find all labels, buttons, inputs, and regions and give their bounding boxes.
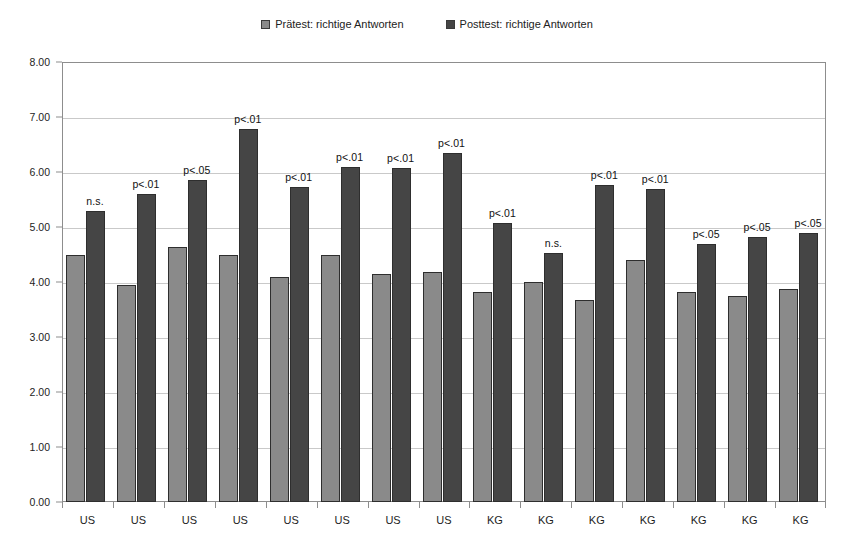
bar-group: p<.01 bbox=[571, 62, 622, 502]
bar-group: p<.01 bbox=[419, 62, 470, 502]
x-tick-mark bbox=[62, 502, 63, 508]
y-tick-label: 4.00 bbox=[30, 276, 50, 288]
bar-group: p<.01 bbox=[368, 62, 419, 502]
y-tick-label: 8.00 bbox=[30, 56, 50, 68]
bar-group: p<.01 bbox=[469, 62, 520, 502]
x-tick-mark bbox=[317, 502, 318, 508]
bars-layer: n.s.p<.01p<.05p<.01p<.01p<.01p<.01p<.01p… bbox=[62, 62, 826, 502]
x-tick-label: KG bbox=[487, 514, 503, 526]
x-tick-mark bbox=[215, 502, 216, 508]
bar-group: p<.01 bbox=[317, 62, 368, 502]
bar-pretest bbox=[728, 296, 747, 502]
bar-posttest bbox=[443, 153, 462, 502]
bar-posttest bbox=[799, 233, 818, 503]
bar-group: p<.05 bbox=[724, 62, 775, 502]
significance-annotation: p<.05 bbox=[693, 228, 720, 240]
bar-posttest bbox=[493, 223, 512, 502]
x-tick-mark bbox=[469, 502, 470, 508]
y-tick-label: 6.00 bbox=[30, 166, 50, 178]
x-tick-label: US bbox=[334, 514, 349, 526]
significance-annotation: n.s. bbox=[545, 237, 562, 249]
bar-posttest bbox=[544, 253, 563, 502]
bar-pretest bbox=[219, 255, 238, 503]
bar-group: p<.01 bbox=[266, 62, 317, 502]
x-tick-mark bbox=[113, 502, 114, 508]
y-tick-label: 7.00 bbox=[30, 111, 50, 123]
bar-posttest bbox=[239, 129, 258, 502]
bar-chart: Prätest: richtige AntwortenPosttest: ric… bbox=[0, 0, 854, 549]
bar-pretest bbox=[270, 277, 289, 503]
x-tick-mark bbox=[368, 502, 369, 508]
bar-group: p<.01 bbox=[113, 62, 164, 502]
bar-group: p<.05 bbox=[775, 62, 826, 502]
significance-annotation: p<.01 bbox=[132, 178, 159, 190]
bar-group: p<.05 bbox=[673, 62, 724, 502]
significance-annotation: p<.05 bbox=[744, 221, 771, 233]
y-tick-label: 1.00 bbox=[30, 441, 50, 453]
bar-posttest bbox=[392, 168, 411, 502]
bar-pretest bbox=[626, 260, 645, 502]
significance-annotation: p<.01 bbox=[336, 151, 363, 163]
significance-annotation: p<.01 bbox=[591, 169, 618, 181]
bar-posttest bbox=[646, 189, 665, 503]
bar-posttest bbox=[188, 180, 207, 502]
x-tick-mark bbox=[825, 502, 826, 508]
x-tick-label: KG bbox=[793, 514, 809, 526]
x-tick-mark bbox=[164, 502, 165, 508]
significance-annotation: p<.05 bbox=[795, 217, 822, 229]
legend-swatch-icon bbox=[261, 20, 270, 29]
significance-annotation: p<.01 bbox=[387, 152, 414, 164]
x-tick-mark bbox=[571, 502, 572, 508]
x-tick-label: US bbox=[436, 514, 451, 526]
x-tick-label: US bbox=[233, 514, 248, 526]
y-tick-label: 0.00 bbox=[30, 496, 50, 508]
legend-label: Posttest: richtige Antworten bbox=[460, 18, 593, 30]
legend-swatch-icon bbox=[446, 20, 455, 29]
bar-pretest bbox=[372, 274, 391, 502]
bar-posttest bbox=[748, 237, 767, 502]
bar-posttest bbox=[341, 167, 360, 503]
legend-entry: Posttest: richtige Antworten bbox=[446, 18, 593, 30]
x-tick-label: US bbox=[284, 514, 299, 526]
bar-group: n.s. bbox=[520, 62, 571, 502]
x-tick-label: KG bbox=[538, 514, 554, 526]
legend-label: Prätest: richtige Antworten bbox=[275, 18, 403, 30]
bar-pretest bbox=[168, 247, 187, 502]
chart-legend: Prätest: richtige AntwortenPosttest: ric… bbox=[0, 18, 854, 30]
x-tick-mark bbox=[673, 502, 674, 508]
bar-pretest bbox=[117, 285, 136, 502]
bar-pretest bbox=[779, 289, 798, 502]
y-axis: 0.001.002.003.004.005.006.007.008.00 bbox=[0, 0, 62, 549]
x-tick-label: US bbox=[131, 514, 146, 526]
bar-posttest bbox=[595, 185, 614, 502]
x-tick-label: KG bbox=[589, 514, 605, 526]
bar-posttest bbox=[137, 194, 156, 502]
bar-pretest bbox=[423, 272, 442, 502]
significance-annotation: p<.01 bbox=[489, 207, 516, 219]
y-tick-label: 3.00 bbox=[30, 331, 50, 343]
x-tick-mark bbox=[622, 502, 623, 508]
bar-pretest bbox=[66, 255, 85, 503]
significance-annotation: p<.01 bbox=[438, 137, 465, 149]
significance-annotation: p<.01 bbox=[285, 171, 312, 183]
x-tick-label: US bbox=[385, 514, 400, 526]
legend-entry: Prätest: richtige Antworten bbox=[261, 18, 403, 30]
bar-group: p<.01 bbox=[215, 62, 266, 502]
x-tick-label: KG bbox=[742, 514, 758, 526]
x-tick-mark bbox=[724, 502, 725, 508]
significance-annotation: n.s. bbox=[86, 195, 103, 207]
y-tick-label: 2.00 bbox=[30, 386, 50, 398]
significance-annotation: p<.05 bbox=[183, 164, 210, 176]
bar-pretest bbox=[575, 300, 594, 502]
x-tick-mark bbox=[266, 502, 267, 508]
bar-posttest bbox=[290, 187, 309, 502]
x-tick-mark bbox=[419, 502, 420, 508]
x-tick-label: KG bbox=[640, 514, 656, 526]
x-tick-mark bbox=[520, 502, 521, 508]
bar-pretest bbox=[677, 292, 696, 502]
bar-posttest bbox=[86, 211, 105, 503]
bar-group: p<.01 bbox=[622, 62, 673, 502]
significance-annotation: p<.01 bbox=[642, 173, 669, 185]
x-tick-label: US bbox=[182, 514, 197, 526]
x-axis: USUSUSUSUSUSUSUSKGKGKGKGKGKGKG bbox=[62, 502, 826, 542]
